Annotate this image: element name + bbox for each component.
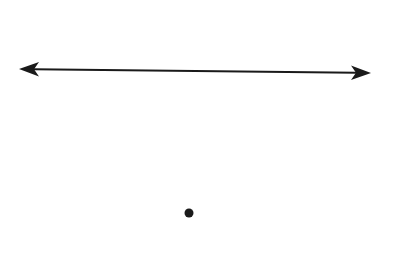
background — [0, 0, 397, 278]
point-dot — [185, 209, 194, 218]
geometry-figure — [0, 0, 397, 278]
